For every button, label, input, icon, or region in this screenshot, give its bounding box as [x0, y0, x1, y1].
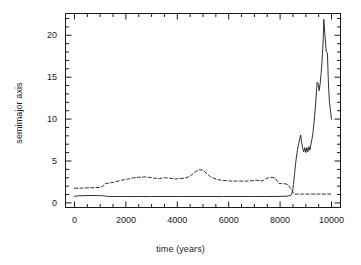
- y-tick-label: 10: [47, 114, 57, 124]
- x-axis-title: time (years): [0, 244, 361, 254]
- plot-frame: [66, 14, 341, 208]
- y-tick-label: 5: [52, 156, 57, 166]
- y-tick-label: 15: [47, 72, 57, 82]
- x-tick-label: 4000: [167, 215, 187, 225]
- x-tick-label: 8000: [270, 215, 290, 225]
- x-tick-label: 6000: [219, 215, 239, 225]
- y-tick-label: 20: [47, 30, 57, 40]
- x-tick-label: 0: [72, 215, 77, 225]
- y-axis-title: semimajor axis: [14, 53, 24, 173]
- data-series: [75, 19, 332, 196]
- y-tick-label: 0: [52, 198, 57, 208]
- series-line-0: [75, 19, 332, 196]
- chart-figure: time (years) semimajor axis 020004000600…: [0, 0, 361, 265]
- x-tick-label: 2000: [116, 215, 136, 225]
- axis-ticks: [66, 14, 341, 208]
- x-tick-label: 10000: [319, 215, 344, 225]
